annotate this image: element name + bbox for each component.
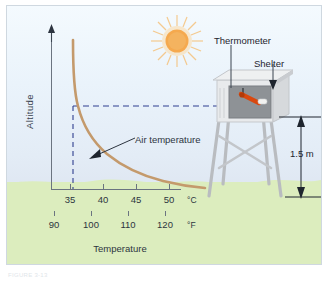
tick-label-c-35: 35 xyxy=(56,194,84,205)
air-temperature-label: Air temperature xyxy=(135,134,200,145)
tick-f-120 xyxy=(165,211,166,216)
tick-label-f-100: 100 xyxy=(77,219,105,230)
tick-label-f-90: 90 xyxy=(40,219,68,230)
tick-label-c-40: 40 xyxy=(89,194,117,205)
shelter-leader-arrow xyxy=(269,80,277,90)
tick-label-f-120: 120 xyxy=(151,219,179,230)
figure-container: Altitude Air temperature 35 40 45 50 °C xyxy=(0,0,328,287)
shelter-leg-back-right xyxy=(263,114,269,184)
illustration-scene: Altitude Air temperature 35 40 45 50 °C xyxy=(6,5,322,265)
tick-c-45 xyxy=(136,184,137,189)
tick-label-c-50: 50 xyxy=(155,194,183,205)
tick-f-90 xyxy=(54,211,55,216)
tick-f-100 xyxy=(91,211,92,216)
shelter-label: Shelter xyxy=(254,58,284,69)
x-axis-title: Temperature xyxy=(65,243,175,254)
thermometer-label: Thermometer xyxy=(214,35,271,46)
tick-c-40 xyxy=(103,184,104,189)
air-temperature-curve xyxy=(47,34,227,194)
tick-label-c-45: 45 xyxy=(122,194,150,205)
tick-label-f-110: 110 xyxy=(114,219,142,230)
figure-caption: FIGURE 3-13 xyxy=(8,272,48,278)
tick-f-110 xyxy=(128,211,129,216)
tick-c-35 xyxy=(70,184,71,189)
height-value-label: 1.5 m xyxy=(290,148,314,159)
shelter-leader-lines xyxy=(203,42,315,102)
shelter-leg-back-left xyxy=(223,114,229,184)
tick-c-50 xyxy=(169,184,170,189)
fahrenheit-unit-label: °F xyxy=(187,220,196,230)
air-temperature-leader-line xyxy=(85,134,141,160)
celsius-unit-label: °C xyxy=(187,195,197,205)
shelter-leg-front-left xyxy=(209,120,219,196)
y-axis-label: Altitude xyxy=(24,82,35,142)
